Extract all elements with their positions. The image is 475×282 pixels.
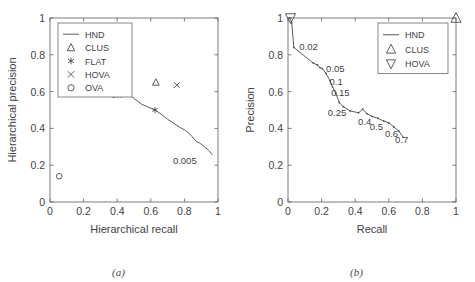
curve-point	[388, 122, 390, 124]
legend-label-hova: HOVA	[405, 59, 430, 69]
y-axis-title: Hierarchical precision	[6, 57, 18, 162]
hova-marker	[285, 14, 295, 24]
y-tick-label: 0	[277, 196, 283, 208]
legend-label-hnd: HND	[405, 30, 425, 40]
curve-point	[317, 64, 319, 66]
curve-point	[322, 68, 324, 70]
curve-point	[371, 116, 373, 118]
x-tick-label: 0.8	[177, 205, 192, 217]
x-tick-label: 0.6	[381, 205, 396, 217]
hnd-curve	[126, 93, 212, 155]
y-tick-label: 0.2	[30, 159, 45, 171]
curve-point	[362, 108, 364, 110]
y-tick-label: 0.8	[30, 49, 45, 61]
y-tick-label: 0.6	[268, 86, 283, 98]
curve-point	[366, 113, 368, 115]
curve-annotation: 0.05	[326, 63, 345, 74]
x-tick-label: 0	[47, 205, 53, 217]
y-tick-label: 0.2	[268, 159, 283, 171]
y-tick-label: 0.8	[268, 49, 283, 61]
ova-marker	[56, 173, 62, 179]
x-tick-label: 0.2	[314, 205, 329, 217]
plot-a-svg: 000.20.20.40.40.60.60.80.811 0.70.005 HN…	[0, 0, 237, 250]
curve-point	[289, 17, 291, 19]
x-tick-label: 0.8	[415, 205, 430, 217]
curve-annotation: 0.005	[173, 155, 197, 166]
plot-a-legend: HNDCLUSFLATHOVAOVA	[58, 23, 132, 97]
x-tick-label: 0.6	[143, 205, 158, 217]
curve-point	[377, 117, 379, 119]
y-axis-title: Precision	[244, 87, 256, 132]
y-tick-label: 0.4	[268, 122, 283, 134]
curve-annotation: 0.02	[299, 41, 318, 52]
y-tick-label: 1	[39, 12, 45, 24]
y-tick-label: 1	[277, 12, 283, 24]
legend-label-clus: CLUS	[405, 45, 429, 55]
clus-marker	[153, 79, 160, 85]
curve-annotation: 0.5	[370, 121, 383, 132]
y-tick-label: 0.6	[30, 86, 45, 98]
plot-b-svg: 000.20.20.40.40.60.60.80.811 0.020.050.1…	[238, 0, 475, 250]
curve-point	[358, 112, 360, 114]
curve-annotation: 0.25	[328, 107, 347, 118]
panel-b-caption: (b)	[238, 266, 475, 278]
curve-annotation: 0.15	[331, 87, 350, 98]
x-tick-label: 0.2	[76, 205, 91, 217]
panel-a-caption: (a)	[0, 266, 237, 278]
x-tick-label: 0	[285, 205, 291, 217]
curve-point	[312, 62, 314, 64]
legend-label-clus: CLUS	[85, 43, 109, 53]
curve-point	[293, 47, 295, 49]
curve-annotation: 0.7	[395, 134, 408, 145]
panel-b: 000.20.20.40.40.60.60.80.811 0.020.050.1…	[238, 0, 475, 282]
legend-label-hova: HOVA	[85, 70, 110, 80]
legend-label-ova: OVA	[85, 83, 103, 93]
plot-b-legend: HNDCLUSHOVA	[378, 23, 448, 74]
curve-annotation: 0.1	[329, 76, 342, 87]
x-tick-label: 0.4	[348, 205, 363, 217]
x-axis-title: Hierarchical recall	[90, 223, 177, 235]
x-tick-label: 1	[453, 205, 459, 217]
panel-a: 000.20.20.40.40.60.60.80.811 0.70.005 HN…	[0, 0, 237, 282]
x-tick-label: 1	[215, 205, 221, 217]
figure-container: 000.20.20.40.40.60.60.80.811 0.70.005 HN…	[0, 0, 475, 282]
x-axis-title: Recall	[357, 223, 388, 235]
x-tick-label: 0.4	[110, 205, 125, 217]
curve-point	[319, 67, 321, 69]
curve-point	[338, 102, 340, 104]
legend-label-hnd: HND	[85, 30, 105, 40]
curve-point	[349, 110, 351, 112]
curve-point	[398, 130, 400, 132]
y-tick-label: 0.4	[30, 122, 45, 134]
y-tick-label: 0	[39, 196, 45, 208]
curve-point	[383, 120, 385, 122]
legend-label-flat: FLAT	[85, 57, 107, 67]
